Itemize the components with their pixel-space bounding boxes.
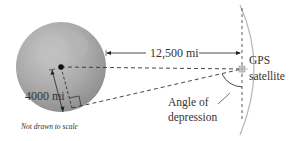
satellite-label-line1: GPS <box>249 54 270 66</box>
arrowhead-left <box>106 51 111 55</box>
arrowhead-right <box>236 51 241 55</box>
satellite-label-line2: satellite <box>249 70 285 82</box>
angle-arc <box>222 74 242 87</box>
satellite-icon <box>236 63 248 75</box>
distance-label: 12,500 mi <box>150 46 199 60</box>
gps-satellite-diagram: 12,500 mi 4000 mi GPS satellite Angle of… <box>0 0 299 141</box>
angle-label-line2: depression <box>168 111 217 124</box>
scale-note: Not drawn to scale <box>20 122 79 131</box>
angle-pointer-line <box>218 93 230 104</box>
radius-label: 4000 mi <box>25 89 65 103</box>
earth-center-dot <box>58 64 64 70</box>
angle-label-line1: Angle of <box>168 96 209 109</box>
